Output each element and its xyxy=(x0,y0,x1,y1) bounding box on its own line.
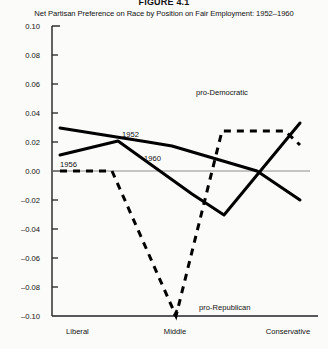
chart-container: 0.10 0.08 0.06 0.04 0.02 0.00 –0.02 –0.0… xyxy=(0,0,328,349)
y-tick-label: –0.04 xyxy=(21,225,40,234)
y-tick-label: 0.06 xyxy=(25,80,40,89)
x-tick-label: Conservative xyxy=(266,327,310,336)
y-tick-label: 0.02 xyxy=(25,138,40,147)
series-label-1960: 1960 xyxy=(144,154,161,163)
y-tick-label: 0.04 xyxy=(25,109,40,118)
series-line-1956 xyxy=(60,131,300,316)
y-tick-label: –0.02 xyxy=(21,196,40,205)
line-chart: 0.10 0.08 0.06 0.04 0.02 0.00 –0.02 –0.0… xyxy=(0,0,328,349)
annotation-pro-republican: pro-Republican xyxy=(199,303,251,312)
series-label-1956: 1956 xyxy=(60,160,77,169)
y-tick-label: –0.08 xyxy=(21,283,40,292)
y-tick-label: 0.00 xyxy=(25,167,40,176)
y-tick-label: –0.06 xyxy=(21,254,40,263)
series-line-1960 xyxy=(60,123,300,215)
y-tick-label: 0.10 xyxy=(25,22,40,31)
series-line-1952 xyxy=(60,128,300,200)
y-tick-label: 0.08 xyxy=(25,51,40,60)
series-label-1952: 1952 xyxy=(122,130,139,139)
x-tick-label: Middle xyxy=(164,327,186,336)
annotation-pro-democratic: pro-Democratic xyxy=(196,88,248,97)
y-tick-label: –0.10 xyxy=(21,312,40,321)
x-axis-labels: Liberal Middle Conservative xyxy=(66,327,310,336)
y-axis-labels: 0.10 0.08 0.06 0.04 0.02 0.00 –0.02 –0.0… xyxy=(21,22,40,321)
x-tick-label: Liberal xyxy=(66,327,89,336)
